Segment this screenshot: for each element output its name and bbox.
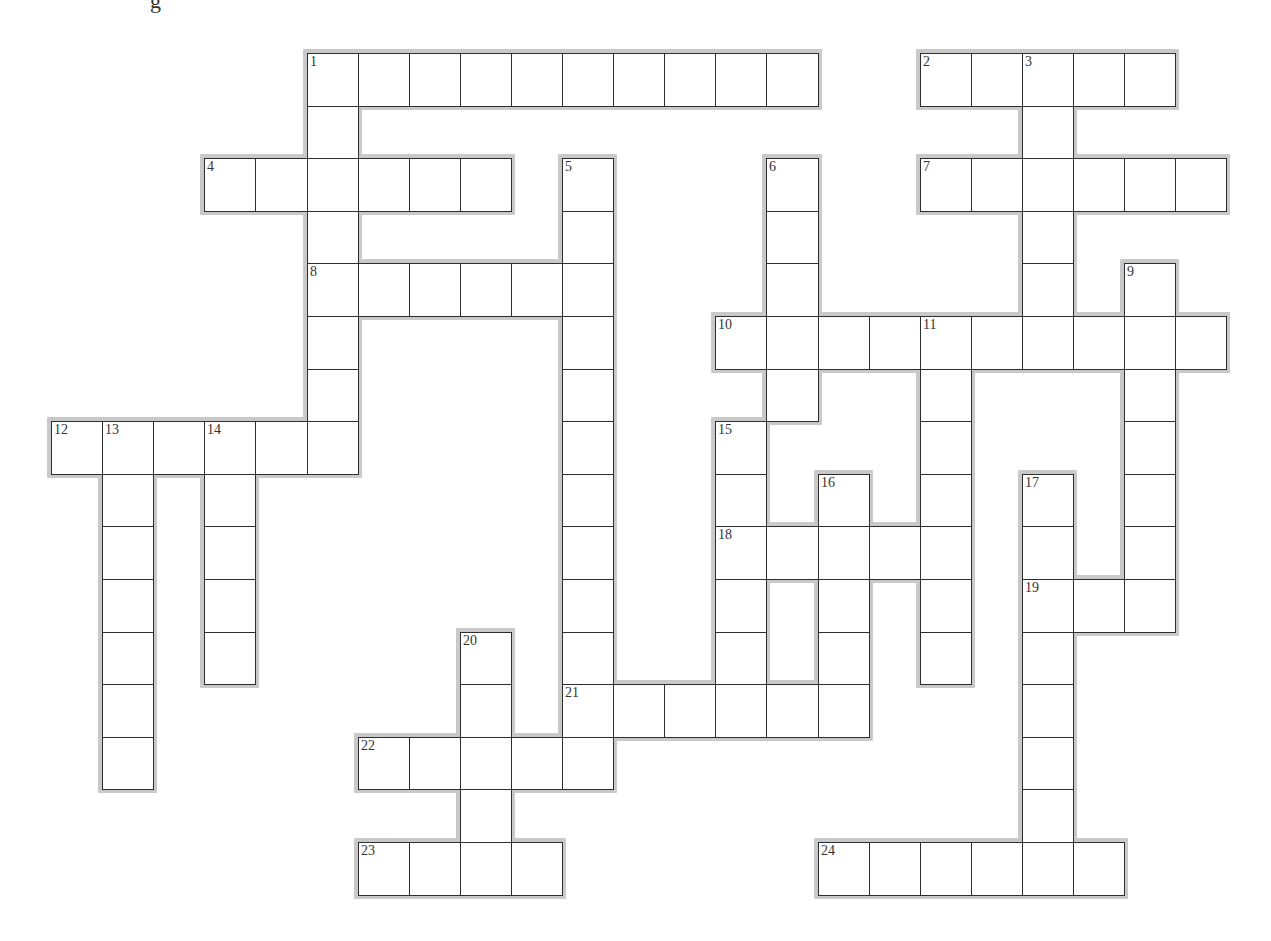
cell-letter-input[interactable] xyxy=(1023,264,1073,316)
cell-letter-input[interactable] xyxy=(410,54,460,106)
cell-letter-input[interactable] xyxy=(1125,475,1175,526)
cell-letter-input[interactable] xyxy=(1023,633,1073,684)
crossword-cell[interactable] xyxy=(971,158,1023,212)
cell-letter-input[interactable] xyxy=(410,738,460,789)
crossword-cell[interactable] xyxy=(1022,737,1074,790)
crossword-cell[interactable] xyxy=(460,789,512,843)
crossword-cell[interactable] xyxy=(153,421,205,475)
crossword-cell[interactable]: 13 xyxy=(102,421,154,475)
crossword-cell[interactable] xyxy=(1175,316,1227,370)
crossword-cell[interactable] xyxy=(920,369,972,422)
cell-letter-input[interactable] xyxy=(1023,843,1073,895)
cell-letter-input[interactable] xyxy=(921,317,971,369)
cell-letter-input[interactable] xyxy=(1125,370,1175,421)
cell-letter-input[interactable] xyxy=(308,54,358,106)
crossword-cell[interactable] xyxy=(1124,579,1176,633)
cell-letter-input[interactable] xyxy=(308,212,358,263)
cell-letter-input[interactable] xyxy=(563,264,613,316)
crossword-cell[interactable] xyxy=(613,53,665,107)
cell-letter-input[interactable] xyxy=(563,527,613,579)
cell-letter-input[interactable] xyxy=(767,159,818,211)
cell-letter-input[interactable] xyxy=(1074,54,1124,106)
cell-letter-input[interactable] xyxy=(614,685,664,737)
crossword-cell[interactable] xyxy=(971,53,1023,107)
cell-letter-input[interactable] xyxy=(1176,317,1226,369)
crossword-cell[interactable] xyxy=(818,316,870,370)
crossword-cell[interactable]: 12 xyxy=(51,421,103,475)
cell-letter-input[interactable] xyxy=(308,264,358,316)
crossword-cell[interactable] xyxy=(562,53,614,107)
cell-letter-input[interactable] xyxy=(767,54,818,106)
crossword-cell[interactable] xyxy=(204,579,256,633)
cell-letter-input[interactable] xyxy=(1125,422,1175,474)
crossword-cell[interactable] xyxy=(1022,842,1074,896)
cell-letter-input[interactable] xyxy=(103,422,153,474)
crossword-cell[interactable] xyxy=(511,737,563,790)
cell-letter-input[interactable] xyxy=(103,475,153,526)
cell-letter-input[interactable] xyxy=(512,264,562,316)
cell-letter-input[interactable] xyxy=(205,159,255,211)
cell-letter-input[interactable] xyxy=(512,738,562,789)
cell-letter-input[interactable] xyxy=(819,580,869,632)
crossword-cell[interactable] xyxy=(1022,263,1074,317)
cell-letter-input[interactable] xyxy=(563,422,613,474)
cell-letter-input[interactable] xyxy=(410,159,460,211)
crossword-cell[interactable] xyxy=(971,842,1023,896)
cell-letter-input[interactable] xyxy=(563,685,613,737)
cell-letter-input[interactable] xyxy=(52,422,102,474)
crossword-cell[interactable] xyxy=(102,737,154,790)
crossword-cell[interactable] xyxy=(358,53,410,107)
cell-letter-input[interactable] xyxy=(819,633,869,684)
cell-letter-input[interactable] xyxy=(767,264,818,316)
crossword-cell[interactable] xyxy=(562,263,614,317)
cell-letter-input[interactable] xyxy=(512,843,562,895)
cell-letter-input[interactable] xyxy=(1023,738,1073,789)
cell-letter-input[interactable] xyxy=(461,54,511,106)
crossword-cell[interactable] xyxy=(562,369,614,422)
crossword-cell[interactable]: 7 xyxy=(920,158,972,212)
crossword-cell[interactable]: 14 xyxy=(204,421,256,475)
crossword-cell[interactable] xyxy=(766,684,819,738)
crossword-cell[interactable]: 23 xyxy=(358,842,410,896)
cell-letter-input[interactable] xyxy=(410,264,460,316)
cell-letter-input[interactable] xyxy=(461,264,511,316)
cell-letter-input[interactable] xyxy=(359,843,409,895)
crossword-cell[interactable] xyxy=(869,316,921,370)
crossword-cell[interactable] xyxy=(460,263,512,317)
cell-letter-input[interactable] xyxy=(359,54,409,106)
crossword-cell[interactable] xyxy=(562,316,614,370)
cell-letter-input[interactable] xyxy=(1023,685,1073,737)
cell-letter-input[interactable] xyxy=(103,738,153,789)
crossword-cell[interactable]: 20 xyxy=(460,632,512,685)
crossword-cell[interactable]: 11 xyxy=(920,316,972,370)
cell-letter-input[interactable] xyxy=(563,580,613,632)
crossword-cell[interactable] xyxy=(562,526,614,580)
cell-letter-input[interactable] xyxy=(563,475,613,526)
cell-letter-input[interactable] xyxy=(1023,475,1073,526)
crossword-cell[interactable] xyxy=(307,421,359,475)
crossword-cell[interactable]: 16 xyxy=(818,474,870,527)
crossword-cell[interactable]: 17 xyxy=(1022,474,1074,527)
crossword-cell[interactable] xyxy=(613,684,665,738)
cell-letter-input[interactable] xyxy=(819,317,869,369)
crossword-cell[interactable] xyxy=(715,474,767,527)
crossword-cell[interactable] xyxy=(1022,106,1074,159)
crossword-cell[interactable] xyxy=(1073,53,1125,107)
crossword-cell[interactable] xyxy=(766,526,819,580)
cell-letter-input[interactable] xyxy=(563,317,613,369)
crossword-cell[interactable] xyxy=(664,53,716,107)
cell-letter-input[interactable] xyxy=(921,475,971,526)
cell-letter-input[interactable] xyxy=(921,580,971,632)
crossword-cell[interactable] xyxy=(511,53,563,107)
cell-letter-input[interactable] xyxy=(308,317,358,369)
crossword-cell[interactable] xyxy=(511,842,563,896)
cell-letter-input[interactable] xyxy=(461,843,511,895)
crossword-cell[interactable] xyxy=(1073,579,1125,633)
cell-letter-input[interactable] xyxy=(716,317,766,369)
crossword-cell[interactable]: 24 xyxy=(818,842,870,896)
crossword-cell[interactable] xyxy=(1022,526,1074,580)
cell-letter-input[interactable] xyxy=(410,843,460,895)
cell-letter-input[interactable] xyxy=(563,212,613,263)
crossword-cell[interactable] xyxy=(562,737,614,790)
cell-letter-input[interactable] xyxy=(308,370,358,421)
